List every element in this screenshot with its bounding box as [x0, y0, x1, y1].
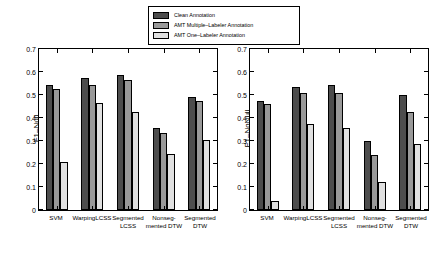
bar [414, 144, 421, 210]
bar-group [46, 49, 68, 210]
y-axis-tick [250, 163, 254, 164]
x-axis-labels-left: SVMWarpingLCSSSegmented LCSSNonseg- ment… [38, 211, 218, 259]
bar-group [257, 49, 279, 210]
bar [53, 89, 60, 210]
bar [307, 124, 314, 210]
y-axis-tick-right [424, 48, 428, 49]
x-axis-tick-top [268, 49, 269, 53]
x-axis-tick [128, 206, 129, 210]
legend-label-amt-multiple-labeler: AMT Multiple–Labeler Annotation [174, 22, 253, 29]
bar-group [188, 49, 210, 210]
bar [60, 162, 67, 210]
y-axis-tick [250, 71, 254, 72]
bar [153, 128, 160, 210]
x-axis-tick [92, 206, 93, 210]
y-axis-tick [250, 209, 254, 210]
chart-panel-f1-null: F1–Null 00.10.20.30.40.50.60.7 SVMWarpin… [38, 48, 218, 211]
y-axis-tick-right [424, 186, 428, 187]
x-axis-tick-top [57, 49, 58, 53]
x-axis-tick [199, 206, 200, 210]
bar [364, 141, 371, 210]
bar [117, 75, 124, 210]
y-axis-tick [39, 186, 43, 187]
y-axis-tick [39, 163, 43, 164]
y-axis-tick-right [424, 163, 428, 164]
x-axis-tick [164, 206, 165, 210]
y-axis-tick-label: 0.3 [26, 138, 36, 145]
x-axis-tick-top [128, 49, 129, 53]
bar [407, 112, 414, 210]
y-axis-tick-label: 0.6 [237, 69, 247, 76]
chart-panel-f1-nonull: F1–NoNull 00.10.20.30.40.50.60.7 SVMWarp… [249, 48, 429, 211]
x-axis-tick [410, 206, 411, 210]
bar-group [81, 49, 103, 210]
legend-label-amt-one-labeler: AMT One–Labeler Annotation [174, 32, 245, 39]
bar [124, 80, 131, 210]
bar [188, 97, 195, 210]
y-axis-tick [39, 48, 43, 49]
bar-group [153, 49, 175, 210]
y-axis-tick-right [213, 48, 217, 49]
y-axis-tick [39, 117, 43, 118]
y-axis-tick [250, 94, 254, 95]
x-axis-tick [303, 206, 304, 210]
bar [371, 155, 378, 210]
bar [343, 128, 350, 210]
plot-area-right: 00.10.20.30.40.50.60.7 [249, 48, 429, 211]
bar [300, 93, 307, 210]
y-axis-tick-right [213, 163, 217, 164]
y-axis-tick-right [213, 209, 217, 210]
bar [160, 133, 167, 210]
bar [328, 85, 335, 210]
bar [203, 140, 210, 210]
y-axis-tick-label: 0.6 [26, 69, 36, 76]
y-axis-tick-right [213, 117, 217, 118]
bar [46, 85, 53, 210]
bar [271, 201, 278, 210]
bar [257, 101, 264, 210]
y-axis-tick-label: 0 [32, 207, 36, 214]
bar-group [117, 49, 139, 210]
bar-group [292, 49, 314, 210]
x-axis-tick-top [199, 49, 200, 53]
bar [81, 78, 88, 210]
legend-swatch-clean-annotation [153, 12, 169, 19]
x-axis-tick-top [375, 49, 376, 53]
y-axis-tick [250, 186, 254, 187]
y-axis-tick-right [424, 209, 428, 210]
bar-group [328, 49, 350, 210]
y-axis-tick-right [213, 71, 217, 72]
y-axis-tick-label: 0.7 [26, 46, 36, 53]
bar-group [399, 49, 421, 210]
y-axis-tick-right [424, 117, 428, 118]
legend-item-amt-one-labeler: AMT One–Labeler Annotation [153, 31, 295, 40]
legend-swatch-amt-one-labeler [153, 32, 169, 39]
x-axis-tick-top [92, 49, 93, 53]
x-axis-category-label: Segmented DTW [389, 214, 432, 230]
bar [167, 154, 174, 210]
legend-swatch-amt-multiple-labeler [153, 22, 169, 29]
bar [399, 95, 406, 210]
bar [89, 85, 96, 210]
y-axis-tick [250, 48, 254, 49]
legend-item-clean-annotation: Clean Annotation [153, 11, 295, 20]
x-axis-tick [268, 206, 269, 210]
y-axis-tick-label: 0.2 [237, 161, 247, 168]
y-axis-tick [39, 209, 43, 210]
y-axis-tick-right [424, 140, 428, 141]
x-axis-tick-top [339, 49, 340, 53]
y-axis-tick-label: 0.7 [237, 46, 247, 53]
x-axis-category-label: Segmented DTW [178, 214, 221, 230]
figure-canvas: Clean Annotation AMT Multiple–Labeler An… [0, 0, 446, 265]
bar [264, 104, 271, 210]
bar [196, 101, 203, 210]
y-axis-tick-right [213, 94, 217, 95]
x-axis-tick-top [303, 49, 304, 53]
y-axis-tick [39, 71, 43, 72]
plot-area-left: 00.10.20.30.40.50.60.7 [38, 48, 218, 211]
x-axis-tick [57, 206, 58, 210]
legend-label-clean-annotation: Clean Annotation [174, 12, 215, 19]
y-axis-tick-right [424, 94, 428, 95]
y-axis-tick [39, 94, 43, 95]
x-axis-tick-top [410, 49, 411, 53]
